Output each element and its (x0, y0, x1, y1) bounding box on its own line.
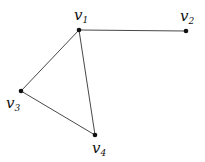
node-v2 (184, 29, 189, 34)
edge-v1-v3 (21, 30, 79, 91)
edge-v1-v4 (79, 30, 95, 135)
node-label-v1: v1 (74, 6, 88, 25)
node-v1 (77, 28, 82, 33)
edge-v3-v4 (21, 91, 95, 135)
node-label-v2: v2 (180, 7, 194, 26)
node-label-v3: v3 (6, 94, 20, 113)
node-v4 (93, 133, 98, 138)
edge-v1-v2 (79, 30, 186, 31)
graph-diagram: v1v2v3v4 (0, 0, 205, 162)
node-label-v4: v4 (92, 139, 106, 158)
node-v3 (19, 89, 24, 94)
